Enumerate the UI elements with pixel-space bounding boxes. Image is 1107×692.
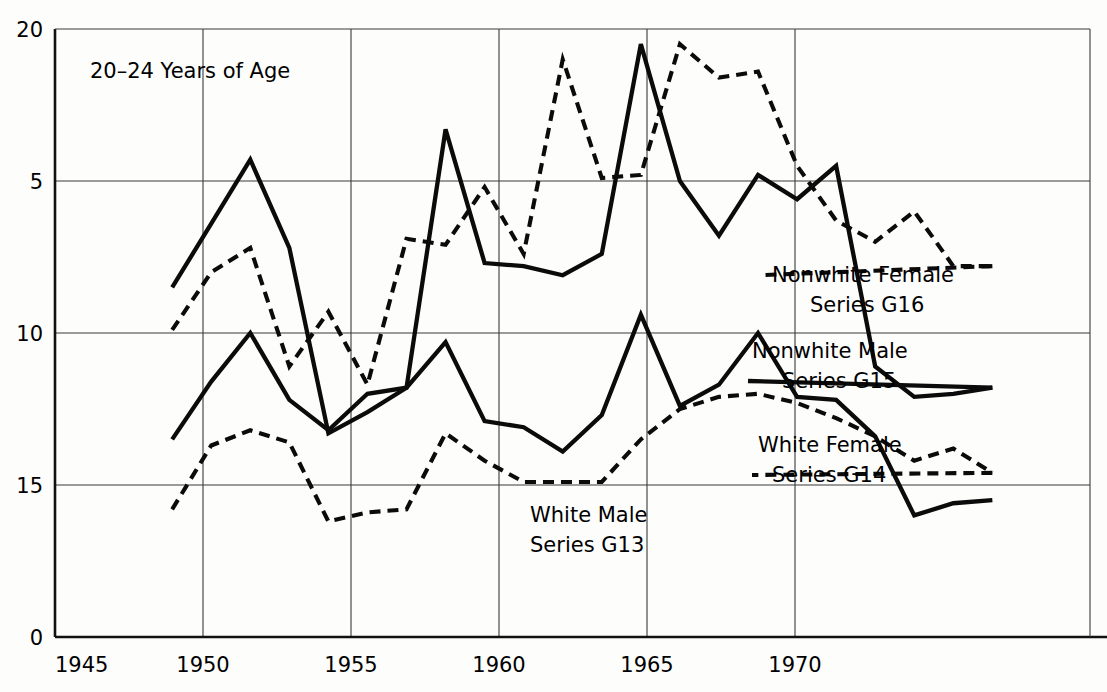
xtick-label-1955: 1955 bbox=[324, 653, 377, 677]
series-label-nonwhite-male-line1: Nonwhite Male bbox=[752, 339, 908, 363]
ytick-label-5: 5 bbox=[30, 170, 43, 194]
series-label-white-male-line1: White Male bbox=[530, 503, 647, 527]
series-label-white-female-line1: White Female bbox=[758, 433, 902, 457]
chart-title: 20–24 Years of Age bbox=[90, 59, 290, 83]
series-label-nonwhite-female-line1: Nonwhite Female bbox=[772, 263, 954, 287]
xtick-label-1960: 1960 bbox=[472, 653, 525, 677]
series-label-white-female-line2: Series G14 bbox=[772, 463, 886, 487]
xtick-label-1950: 1950 bbox=[176, 653, 229, 677]
x-axis-labels: 1945 1950 1955 1960 1965 1970 bbox=[55, 653, 822, 677]
ytick-label-20: 20 bbox=[16, 18, 43, 42]
xtick-label-1970: 1970 bbox=[768, 653, 821, 677]
chart-figure: 20 15 10 5 0 1945 1950 1955 1960 1965 19… bbox=[0, 0, 1107, 692]
xtick-label-1945: 1945 bbox=[55, 653, 108, 677]
line-chart: 20 15 10 5 0 1945 1950 1955 1960 1965 19… bbox=[0, 0, 1107, 692]
series-label-nonwhite-male-line2: Series G15 bbox=[782, 369, 896, 393]
ytick-label-15: 15 bbox=[16, 474, 43, 498]
series-label-white-male-line2: Series G13 bbox=[530, 533, 644, 557]
ytick-label-10: 10 bbox=[16, 322, 43, 346]
y-axis-labels: 20 15 10 5 0 bbox=[16, 18, 43, 650]
xtick-label-1965: 1965 bbox=[620, 653, 673, 677]
series-label-nonwhite-female-line2: Series G16 bbox=[810, 293, 924, 317]
series-annotations: Nonwhite Female Series G16 Nonwhite Male… bbox=[530, 263, 954, 557]
ytick-label-0: 0 bbox=[30, 626, 43, 650]
